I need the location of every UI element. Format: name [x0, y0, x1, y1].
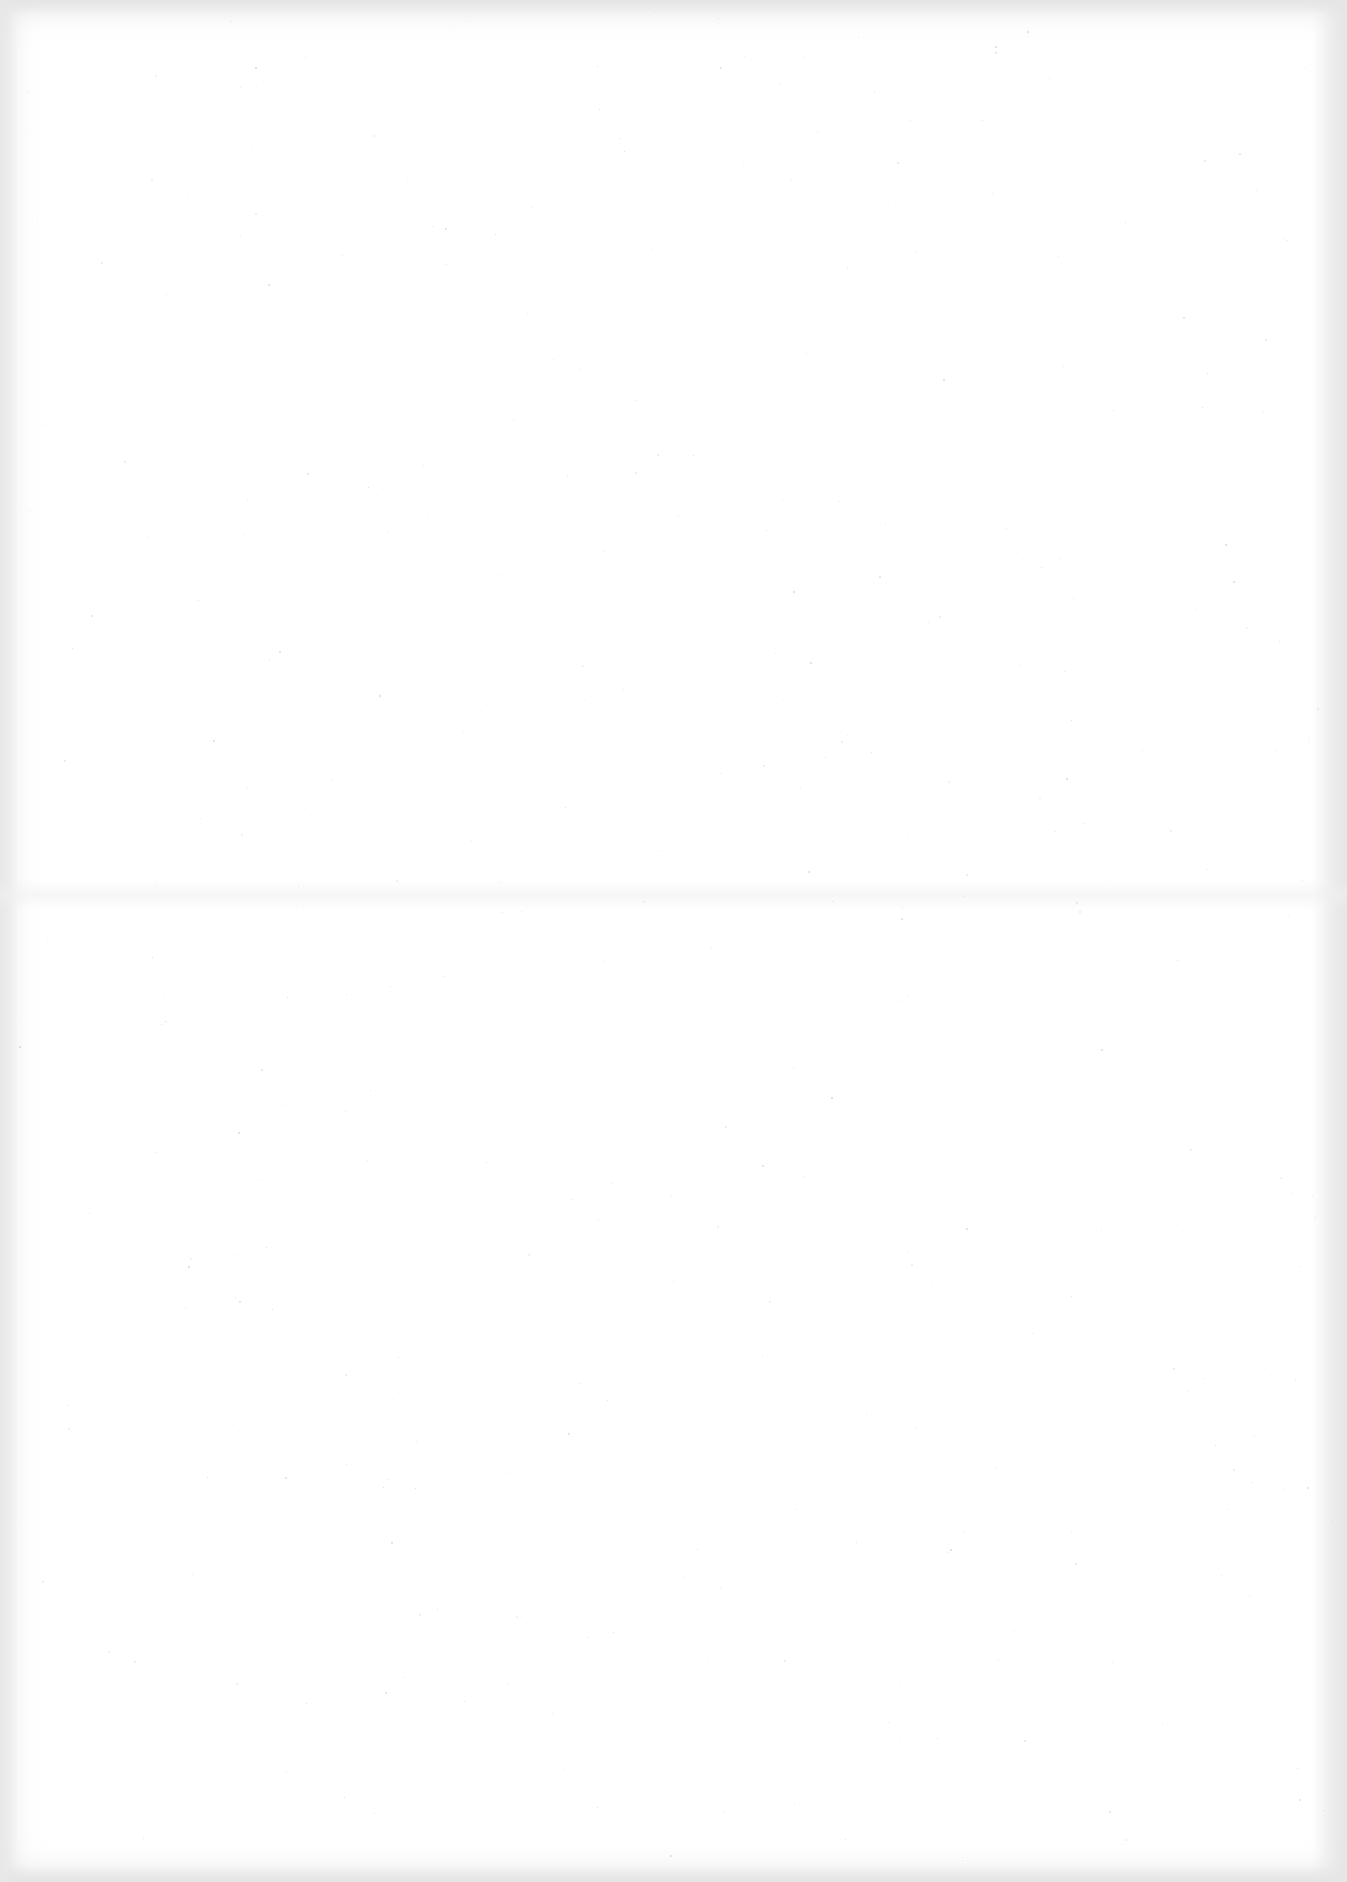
dust-speck: [205, 1522, 206, 1523]
dust-speck: [1305, 67, 1306, 68]
dust-speck: [1176, 611, 1177, 612]
dust-speck: [937, 1738, 938, 1739]
dust-speck: [1115, 310, 1116, 311]
dust-speck: [351, 546, 352, 547]
dust-speck: [368, 487, 369, 488]
dust-speck: [866, 1414, 867, 1415]
dust-speck: [568, 1433, 570, 1435]
dust-speck: [198, 600, 199, 601]
dust-speck: [247, 788, 248, 789]
dust-speck: [915, 251, 916, 252]
dust-speck: [1101, 1230, 1102, 1231]
dust-speck: [200, 818, 201, 819]
dust-speck: [964, 1531, 965, 1532]
dust-speck: [582, 665, 584, 667]
dust-speck: [238, 1132, 240, 1134]
dust-speck: [1031, 65, 1032, 66]
dust-speck: [1254, 1436, 1255, 1437]
dust-speck: [239, 1301, 241, 1303]
dust-speck: [498, 574, 499, 575]
dust-speck: [950, 1549, 952, 1551]
dust-speck: [775, 653, 776, 654]
dust-speck: [279, 651, 281, 653]
dust-speck: [342, 255, 343, 256]
dust-speck: [390, 986, 391, 987]
dust-speck: [1142, 750, 1143, 751]
dust-speck: [1113, 410, 1114, 411]
dust-speck: [500, 882, 501, 883]
dust-speck: [1177, 960, 1178, 961]
dust-speck: [134, 1661, 136, 1663]
dust-speck: [711, 948, 712, 949]
dust-speck: [125, 987, 126, 988]
dust-speck: [888, 1722, 889, 1723]
dust-speck: [114, 234, 115, 235]
dust-speck: [643, 901, 645, 903]
dust-speck: [1024, 1740, 1026, 1742]
dust-speck: [879, 576, 881, 578]
dust-speck: [1162, 1723, 1163, 1724]
dust-speck: [502, 912, 503, 913]
dust-speck: [130, 835, 131, 836]
dust-speck: [1058, 256, 1059, 257]
dust-speck: [570, 804, 571, 805]
dust-speck: [370, 1090, 371, 1091]
dust-speck: [64, 1481, 65, 1482]
dust-speck: [1025, 428, 1026, 429]
dust-speck: [651, 1717, 652, 1718]
dust-speck: [1109, 1811, 1111, 1813]
dust-speck: [1064, 671, 1065, 672]
dust-speck: [333, 651, 334, 652]
dust-speck: [720, 1587, 721, 1588]
dust-speck: [657, 410, 658, 411]
dust-speck: [241, 834, 243, 836]
dust-speck: [237, 274, 238, 275]
dust-speck: [238, 1431, 239, 1432]
dust-speck: [629, 1112, 630, 1113]
dust-speck: [383, 1487, 384, 1488]
dust-speck: [565, 807, 566, 808]
dust-speck: [53, 1717, 54, 1718]
dust-speck: [963, 896, 964, 897]
dust-speck: [1010, 548, 1011, 549]
dust-speck: [261, 1179, 262, 1180]
dust-speck: [495, 234, 496, 235]
dust-speck: [598, 1220, 599, 1221]
dust-speck: [307, 473, 309, 475]
dust-speck: [1287, 240, 1288, 241]
dust-speck: [282, 1104, 283, 1105]
dust-speck: [463, 732, 464, 733]
dust-speck: [791, 179, 792, 180]
dust-speck: [1242, 541, 1243, 542]
dust-speck: [1265, 1369, 1266, 1370]
dust-speck: [156, 885, 157, 886]
dust-speck: [161, 1024, 162, 1025]
dust-speck: [1073, 598, 1074, 599]
dust-speck: [367, 1160, 368, 1161]
dust-speck: [1284, 1488, 1285, 1489]
dust-speck: [1187, 1391, 1188, 1392]
dust-speck: [266, 1247, 267, 1248]
dust-speck: [464, 1701, 465, 1702]
dust-speck: [520, 911, 521, 912]
dust-speck: [390, 494, 391, 495]
dust-speck: [480, 710, 481, 711]
dust-speck: [604, 551, 605, 552]
dust-speck: [332, 780, 333, 781]
dust-speck: [1023, 559, 1024, 560]
dust-speck: [236, 570, 237, 571]
dust-speck: [1225, 544, 1227, 546]
dust-speck: [803, 56, 804, 57]
dust-speck: [255, 213, 257, 215]
dust-speck: [231, 21, 232, 22]
dust-speck: [85, 1648, 86, 1649]
dust-speck: [152, 957, 153, 958]
dust-speck: [717, 1226, 719, 1228]
dust-speck: [143, 1838, 144, 1839]
dust-speck: [1041, 567, 1042, 568]
dust-speck: [1202, 407, 1203, 408]
dust-speck: [635, 472, 637, 474]
dust-speck: [471, 840, 472, 841]
dust-speck: [1204, 160, 1206, 162]
dust-speck: [895, 205, 896, 206]
